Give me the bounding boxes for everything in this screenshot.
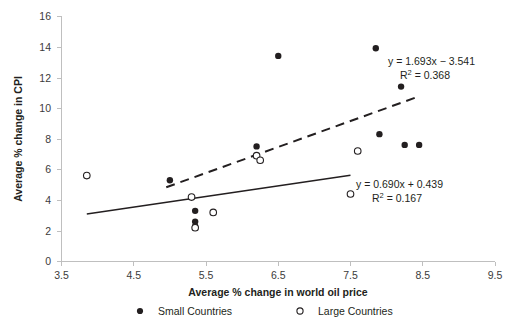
data-point-large-country [188,194,195,201]
y-tick-label: 14 [39,41,51,53]
y-tick-label: 6 [45,163,51,175]
data-point-small-country [275,53,281,59]
y-tick-label: 4 [45,194,51,206]
dashed-equation-annotation: y = 1.693x − 3.541 R2 = 0.368 [388,55,475,81]
data-point-small-country [401,142,407,148]
dashed-r2-line: R2 = 0.368 [400,68,450,81]
data-point-small-country [416,142,422,148]
y-axis: 0 2 4 6 8 10 12 14 16 Average % change i… [12,10,62,267]
solid-equation-annotation: y = 0.690x + 0.439 R2 = 0.167 [356,178,443,204]
data-point-large-country [210,209,217,216]
x-axis: 3.5 4.5 5.5 6.5 7.5 8.5 9.5 Average % ch… [54,262,502,299]
y-tick-label: 0 [45,255,51,267]
dashed-equation-line: y = 1.693x − 3.541 [388,55,475,67]
y-tick-label: 10 [39,102,51,114]
legend: Small Countries Large Countries [137,305,393,317]
legend-label-small-countries: Small Countries [158,305,232,317]
x-tick-label: 4.5 [126,269,141,281]
data-point-large-country [192,224,199,231]
data-point-small-country [398,83,404,89]
data-point-small-country [192,208,198,214]
data-point-large-country [257,157,264,164]
data-point-small-country [167,177,173,183]
data-point-small-country [253,143,259,149]
data-point-large-country [83,172,90,179]
data-point-small-country [373,45,379,51]
y-tick-label: 16 [39,10,51,22]
y-tick-label: 12 [39,72,51,84]
x-tick-label: 7.5 [343,269,358,281]
large-countries-trendline [87,175,351,214]
x-tick-label: 5.5 [199,269,214,281]
x-axis-title: Average % change in world oil price [188,286,367,298]
small-countries-trendline [166,96,419,187]
scatter-chart: 0 2 4 6 8 10 12 14 16 Average % change i… [0,0,505,325]
y-tick-label: 2 [45,225,51,237]
solid-equation-line: y = 0.690x + 0.439 [356,178,443,190]
y-tick-label: 8 [45,133,51,145]
data-point-large-country [347,191,354,198]
x-tick-label: 6.5 [271,269,286,281]
data-point-small-country [376,131,382,137]
x-tick-label: 8.5 [415,269,430,281]
y-axis-title: Average % change in CPI [12,76,24,202]
legend-marker-small-countries [137,308,143,314]
legend-marker-large-countries [297,308,303,314]
legend-label-large-countries: Large Countries [318,305,393,317]
solid-r2-line: R2 = 0.167 [372,191,422,204]
x-tick-label: 9.5 [488,269,503,281]
x-tick-label: 3.5 [54,269,69,281]
series-large-countries [83,148,361,231]
data-point-large-country [354,148,361,155]
